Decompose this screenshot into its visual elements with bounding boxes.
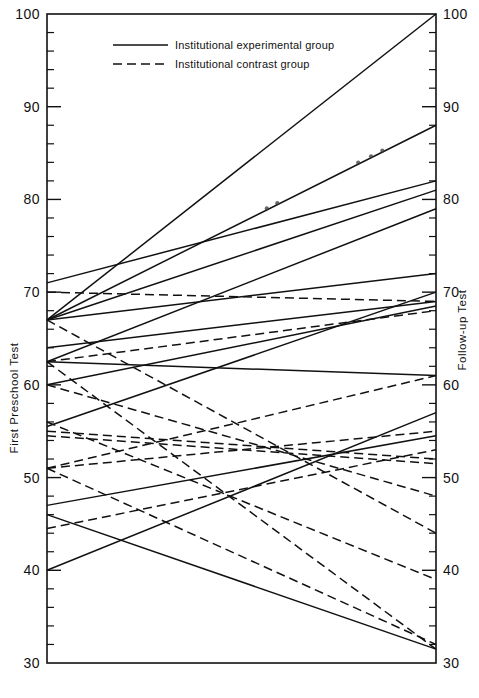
ink-speck [380,149,384,153]
ink-speck [369,154,373,158]
right-tick-label: 30 [443,655,460,671]
ink-speck [356,161,360,165]
left-tick-label: 60 [23,377,40,393]
legend-label-contrast: Institutional contrast group [175,58,310,70]
series-group [47,14,436,649]
series-line-ctr-3 [47,376,436,469]
legend: Institutional experimental group Institu… [113,39,334,70]
series-line-exp-8 [47,301,436,347]
left-tick-label: 70 [23,284,40,300]
left-tick-label: 100 [15,6,40,22]
series-line-exp-2 [47,125,436,320]
ink-speck [275,201,279,205]
series-line-ctr-11 [47,362,436,649]
left-tick-label: 50 [23,470,40,486]
right-tick-label: 60 [443,377,460,393]
left-tick-label: 40 [23,562,40,578]
chart-container: First Preschool Test Follow-up Test 3030… [0,0,479,698]
series-line-exp-11 [47,413,436,571]
line-chart: First Preschool Test Follow-up Test 3030… [0,0,479,698]
ink-speck [265,206,269,210]
right-tick-label: 100 [443,6,468,22]
series-line-exp-13 [47,515,436,649]
left-tick-label: 30 [23,655,40,671]
right-tick-label: 70 [443,284,460,300]
right-tick-label: 40 [443,562,460,578]
legend-label-experimental: Institutional experimental group [175,39,334,51]
tick-label-group: 3030404050506060707080809090100100 [15,6,468,671]
right-tick-label: 80 [443,191,460,207]
left-tick-label: 90 [23,99,40,115]
series-line-ctr-5 [47,450,436,529]
right-axis-title: Follow-up Test [456,289,468,370]
right-tick-label: 90 [443,99,460,115]
left-tick-label: 80 [23,191,40,207]
right-tick-label: 50 [443,470,460,486]
left-axis-title: First Preschool Test [8,342,20,453]
